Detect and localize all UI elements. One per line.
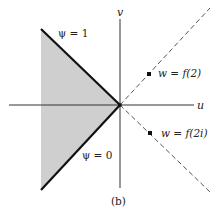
point-f2i xyxy=(148,131,152,135)
conformal-map-figure: v u ψ = 1 ψ = 0 w = f(2) w = f(2i) (b) xyxy=(0,0,222,217)
label-psi-1: ψ = 1 xyxy=(58,27,88,39)
label-f2: w = f(2) xyxy=(158,67,201,79)
figure-caption: (b) xyxy=(111,195,126,207)
label-psi-0: ψ = 0 xyxy=(82,149,112,161)
dashed-ray-lower xyxy=(120,105,210,192)
dashed-ray-upper xyxy=(120,8,210,105)
origin-point xyxy=(118,103,122,107)
v-axis-label: v xyxy=(117,6,124,19)
u-axis-label: u xyxy=(197,99,204,112)
label-f2i: w = f(2i) xyxy=(161,127,208,139)
point-f2 xyxy=(147,72,151,76)
shaded-region xyxy=(41,29,120,190)
